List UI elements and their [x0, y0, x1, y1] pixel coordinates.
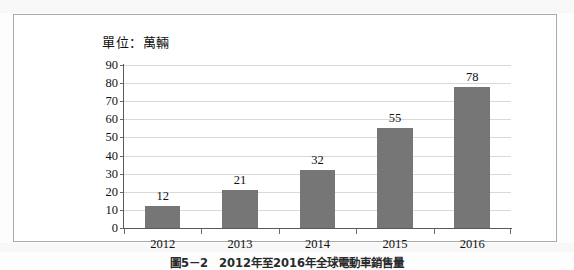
bar-value-label: 78: [466, 71, 479, 84]
chart-frame: 單位：萬輛 1221325578 0102030405060708090 201…: [13, 14, 557, 242]
bar-value-label: 12: [156, 190, 169, 203]
category-label: 2012: [150, 237, 175, 252]
bar: [454, 87, 490, 228]
plot-area: 1221325578: [124, 65, 511, 228]
gridline: [124, 65, 511, 66]
y-tick-label: 0: [112, 222, 118, 235]
gridline: [124, 137, 511, 138]
category-label: 2013: [228, 237, 253, 252]
bar: [300, 170, 336, 228]
y-tick-label: 30: [106, 167, 119, 180]
y-tick-label: 80: [106, 77, 119, 90]
x-tick-mark: [279, 229, 280, 234]
y-tick-label: 90: [106, 59, 119, 72]
y-axis-line: [123, 64, 124, 229]
category-label: 2016: [460, 237, 485, 252]
gridline: [124, 101, 511, 102]
unit-label: 單位：萬輛: [102, 32, 170, 51]
bar-value-label: 32: [311, 154, 324, 167]
x-tick-mark: [201, 229, 202, 234]
y-tick-label: 40: [106, 149, 119, 162]
category-label: 2014: [305, 237, 330, 252]
bar-value-label: 55: [389, 112, 402, 125]
x-tick-mark: [510, 229, 511, 234]
x-tick-mark: [124, 229, 125, 234]
y-tick-label: 20: [106, 186, 119, 199]
y-axis-tick-labels: 0102030405060708090: [90, 65, 118, 228]
scan-texture-top: [0, 0, 574, 13]
x-tick-mark: [356, 229, 357, 234]
category-label: 2015: [382, 237, 407, 252]
gridline: [124, 83, 511, 84]
x-axis-tick-marks: [124, 229, 512, 235]
y-tick-label: 70: [106, 95, 119, 108]
bar: [222, 190, 258, 228]
y-tick-label: 50: [106, 131, 119, 144]
figure-caption: 圖5－2 2012年至2016年全球電動車銷售量: [0, 254, 574, 270]
gridline: [124, 119, 511, 120]
bar-value-label: 21: [234, 174, 247, 187]
bar: [377, 128, 413, 228]
y-tick-label: 60: [106, 113, 119, 126]
bar: [145, 206, 181, 228]
y-tick-label: 10: [106, 204, 119, 217]
x-tick-mark: [434, 229, 435, 234]
x-axis-category-labels: 20122013201420152016: [124, 237, 511, 253]
